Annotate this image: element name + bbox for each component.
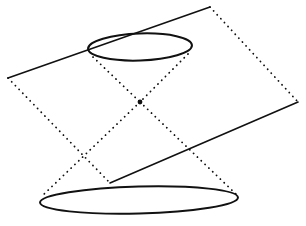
- plane-edge-top-right: [210, 7, 298, 102]
- generator-upper-right-line: [140, 54, 188, 102]
- cone-generator-lines: [41, 54, 237, 197]
- plane-edge-left-top: [8, 7, 210, 78]
- generator-lower-left-line: [41, 102, 140, 197]
- lower-nappe-circle: [40, 184, 239, 216]
- cone-apex-dot: [138, 100, 143, 105]
- figure-canvas: [0, 0, 306, 226]
- nappe-circles: [40, 32, 239, 216]
- upper-nappe-circle: [88, 32, 193, 63]
- conic-section-figure: [0, 0, 306, 226]
- plane-edge-bottom-right: [110, 102, 298, 183]
- plane-edge-left-bottom: [8, 78, 110, 183]
- generator-upper-left-line: [93, 57, 140, 102]
